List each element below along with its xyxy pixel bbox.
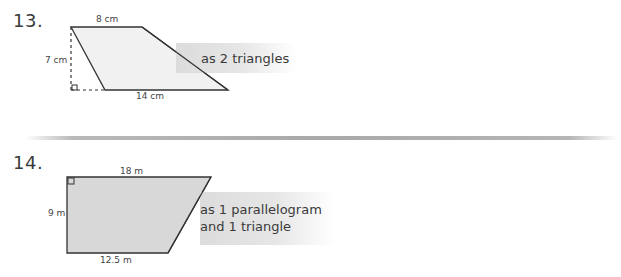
section-divider (25, 136, 617, 140)
instruction-text-13: as 2 triangles (201, 50, 289, 67)
dimension-bottom-14: 12.5 m (100, 255, 132, 265)
dimension-height-14: 9 m (48, 208, 65, 218)
instruction-text-14-line2: and 1 triangle (200, 218, 291, 235)
dimension-height-13: 7 cm (45, 55, 67, 65)
problem-number-13: 13. (13, 10, 43, 31)
dimension-top-13: 8 cm (96, 14, 118, 24)
dimension-bottom-13: 14 cm (136, 91, 164, 101)
dimension-top-14: 18 m (120, 166, 143, 176)
instruction-text-14-line1: as 1 parallelogram (200, 201, 322, 218)
problem-number-14: 14. (13, 152, 43, 173)
